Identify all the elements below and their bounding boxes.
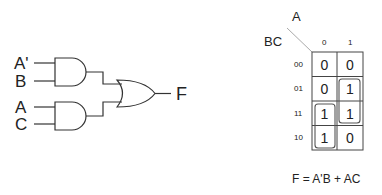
input-label-a-prime: A' — [14, 54, 29, 73]
input-label-c: C — [15, 115, 27, 134]
kmap-row-header-00: 00 — [294, 60, 303, 69]
diagram-canvas: A' B A C F A BC 0 1 00 01 11 10 0 0 0 1 … — [0, 0, 382, 195]
boolean-equation: F = A'B + AC — [292, 172, 361, 186]
kmap-row-header-10: 10 — [294, 133, 303, 142]
kmap-col-variable: A — [292, 9, 301, 24]
and-gate-2 — [55, 102, 86, 130]
kmap-cell-10-0: 1 — [321, 130, 329, 146]
kmap-cell-01-1: 1 — [346, 81, 354, 97]
kmap-col-header-1: 1 — [348, 38, 353, 47]
logic-circuit — [34, 58, 171, 130]
or-gate — [117, 80, 155, 107]
kmap-cell-00-1: 0 — [346, 57, 354, 73]
kmap-cell-11-0: 1 — [321, 106, 329, 122]
kmap-col-header-0: 0 — [322, 38, 327, 47]
kmap-cell-00-0: 0 — [321, 57, 329, 73]
kmap-cell-10-1: 0 — [346, 130, 354, 146]
kmap-row-header-01: 01 — [294, 84, 303, 93]
karnaugh-map: A BC 0 1 00 01 11 10 0 0 0 1 1 1 1 0 — [264, 9, 363, 150]
kmap-cell-11-1: 1 — [346, 106, 354, 122]
kmap-row-header-11: 11 — [294, 109, 303, 118]
kmap-diagonal — [287, 28, 312, 52]
output-label-f: F — [176, 84, 187, 104]
kmap-row-variable: BC — [264, 34, 282, 49]
input-label-b: B — [15, 72, 26, 91]
kmap-cell-01-0: 0 — [321, 81, 329, 97]
and-gate-1 — [55, 58, 86, 86]
